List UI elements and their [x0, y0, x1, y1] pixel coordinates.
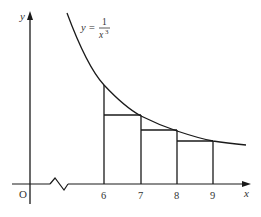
x-tick-9: 9 [210, 190, 215, 201]
svg-text:x: x [98, 30, 104, 40]
origin-label: O [19, 188, 27, 200]
graph-diagram: y x O 6 7 8 9 y = 1 x 3 [0, 0, 261, 217]
x-axis [12, 178, 251, 190]
svg-text:y =: y = [80, 22, 95, 33]
x-tick-7: 7 [138, 190, 143, 201]
rectangles [104, 85, 213, 184]
svg-text:3: 3 [105, 28, 109, 36]
x-tick-8: 8 [174, 190, 179, 201]
x-axis-label: x [243, 187, 249, 199]
y-axis-arrow-icon [27, 11, 33, 20]
svg-text:1: 1 [102, 17, 107, 27]
function-label: y = 1 x 3 [80, 17, 110, 40]
x-tick-6: 6 [101, 190, 106, 201]
y-axis [27, 11, 33, 204]
axis-break-zigzag [50, 178, 68, 190]
y-axis-label: y [19, 10, 25, 22]
